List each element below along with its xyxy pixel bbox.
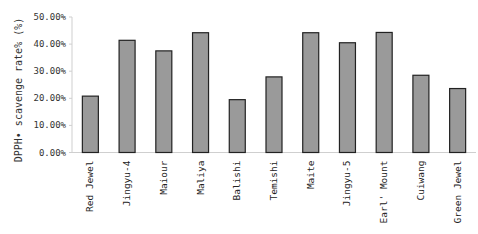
bar-earl-mount <box>376 32 392 152</box>
y-tick-label: 40.00% <box>33 39 66 49</box>
x-category-label: Maite <box>305 160 316 189</box>
x-category-label: Jingyu-4 <box>121 160 132 206</box>
x-category-label: Maliya <box>195 161 206 195</box>
bar-balishi <box>229 100 245 153</box>
y-tick-label: 20.00% <box>33 93 66 103</box>
bar-maiour <box>156 51 172 153</box>
bar-chart: DPPH• scavenge rate% (%) 0.00%10.00%20.0… <box>0 0 478 234</box>
bar-jingyu-4 <box>119 40 135 152</box>
y-tick-label: 30.00% <box>33 66 66 76</box>
y-axis-title: DPPH• scavenge rate% (%) <box>13 18 24 163</box>
bar-green-jewel <box>450 89 466 153</box>
bar-cuiwang <box>413 75 429 152</box>
x-category-label: Jingyu-5 <box>341 161 352 207</box>
bar-temishi <box>266 77 282 153</box>
x-category-label: Green Jewel <box>452 161 463 224</box>
x-category-label: Temishi <box>268 160 279 200</box>
x-category-label: Earl' Mount <box>378 161 389 224</box>
x-category-label: Red Jewel <box>84 161 95 212</box>
y-tick-label: 10.00% <box>33 120 66 130</box>
bar-maite <box>303 33 319 153</box>
bar-red-jewel <box>82 96 98 152</box>
y-tick-label: 0.00% <box>39 148 67 158</box>
bar-jingyu-5 <box>339 43 355 153</box>
x-category-label: Cuiwang <box>415 161 426 201</box>
x-category-label: Balishi <box>231 160 242 200</box>
y-tick-label: 50.00% <box>33 12 66 22</box>
x-category-label: Maiour <box>158 160 169 195</box>
bar-maliya <box>193 33 209 153</box>
